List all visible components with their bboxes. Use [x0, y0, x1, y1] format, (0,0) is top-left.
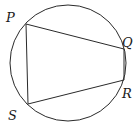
- vertex-label-r: R: [121, 86, 132, 101]
- quadrilateral-pqrs: [26, 24, 124, 104]
- cyclic-quadrilateral-diagram: P Q R S: [0, 0, 138, 125]
- vertex-label-s: S: [8, 108, 17, 123]
- vertex-label-p: P: [5, 10, 15, 25]
- vertex-label-q: Q: [122, 35, 133, 50]
